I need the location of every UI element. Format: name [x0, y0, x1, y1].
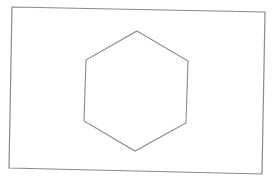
outer-rectangle [9, 7, 265, 174]
inner-hexagon [84, 31, 188, 151]
diagram-canvas [0, 0, 273, 179]
